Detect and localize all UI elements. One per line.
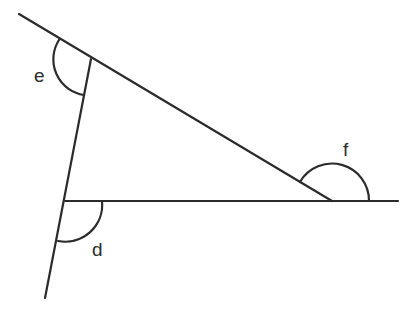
sloping-line xyxy=(19,14,332,201)
angle-arc-e xyxy=(53,40,84,95)
angle-label-f: f xyxy=(343,139,349,160)
angle-arc-d xyxy=(58,201,102,242)
angle-arc-f xyxy=(300,164,369,201)
triangle-diagram: e d f xyxy=(0,0,414,318)
angle-label-d: d xyxy=(92,239,103,260)
angle-label-e: e xyxy=(34,65,45,86)
